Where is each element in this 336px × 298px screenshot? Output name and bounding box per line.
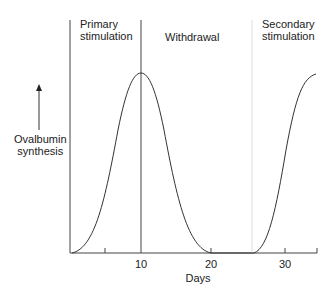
label-primary-line1: Primary [80, 18, 133, 30]
y-label-line2: synthesis [14, 145, 67, 157]
tick-label-20: 20 [205, 258, 217, 270]
label-secondary-line1: Secondary [262, 18, 315, 30]
tick-label-10: 10 [135, 258, 147, 270]
label-withdrawal: Withdrawal [165, 31, 219, 43]
label-primary-line2: stimulation [80, 30, 133, 42]
secondary-curve [254, 74, 316, 253]
label-secondary-line2: stimulation [262, 30, 315, 42]
tick-label-30: 30 [279, 258, 291, 270]
x-axis-label: Days [185, 272, 210, 284]
label-primary: Primary stimulation [80, 18, 133, 42]
y-arrow-head-icon [36, 84, 42, 91]
y-label-line1: Ovalbumin [14, 133, 67, 145]
label-secondary: Secondary stimulation [262, 18, 315, 42]
y-axis-label: Ovalbumin synthesis [14, 133, 67, 157]
